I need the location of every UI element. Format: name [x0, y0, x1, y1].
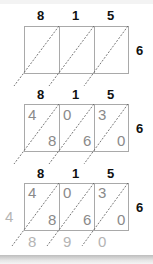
grid-3-top-digit-1: 8: [37, 167, 44, 180]
grid-3-cell-2-ones: 6: [83, 212, 91, 227]
grid-2-cell-3-tens: 3: [98, 107, 106, 122]
result-bottom-digit-3: 0: [98, 234, 106, 249]
grid-1-diagonals: [14, 26, 128, 86]
grid-3-cell-1-tens: 4: [28, 185, 36, 200]
result-bottom-digit-2: 9: [63, 234, 71, 249]
grid-3-cell-3-tens: 3: [98, 185, 106, 200]
grid-1-top-digit-1: 8: [37, 9, 44, 22]
grid-3-right-digit: 6: [136, 201, 143, 214]
grid-2-top-digit-2: 1: [72, 88, 79, 101]
grid-3-cell-1-ones: 8: [48, 212, 56, 227]
grid-2-right-digit: 6: [136, 122, 143, 135]
grid-2-top-digit-1: 8: [37, 88, 44, 101]
grid-3-cell-3-ones: 0: [117, 212, 125, 227]
grid-2-cell-1-ones: 8: [48, 133, 56, 148]
grid-2-cell-2-tens: 0: [63, 107, 71, 122]
result-left-digit: 4: [5, 209, 13, 224]
bottom-shadow-edge: [0, 255, 153, 264]
grid-3-top-digit-3: 5: [107, 167, 114, 180]
lattice-lines: [0, 0, 153, 256]
lattice-diagram: 8 1 5 6 8 1 5 6 4 8 0 6 3 0 8 1 5 6 4 8 …: [0, 0, 153, 256]
grid-1-right-digit: 6: [136, 44, 143, 57]
grid-2-top-digit-3: 5: [107, 88, 114, 101]
result-bottom-digit-1: 8: [28, 234, 36, 249]
grid-1-top-digit-2: 1: [72, 9, 79, 22]
grid-1-top-digit-3: 5: [107, 9, 114, 22]
grid-3-cell-2-tens: 0: [63, 185, 71, 200]
grid-2-cell-2-ones: 6: [83, 133, 91, 148]
grid-2-cell-1-tens: 4: [28, 107, 36, 122]
grid-3-top-digit-2: 1: [72, 167, 79, 180]
grid-2-cell-3-ones: 0: [117, 133, 125, 148]
